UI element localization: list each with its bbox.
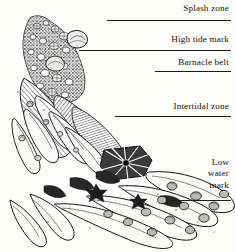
- label-intertidal-zone: Intertidal zone: [173, 101, 229, 112]
- rule-barnacle-belt: [155, 71, 231, 72]
- rule-low-water-mark: [171, 200, 231, 201]
- label-barnacle-belt: Barnacle belt: [178, 57, 229, 68]
- label-low-water-mark: Low water mark: [208, 157, 229, 191]
- rule-splash-zone: [107, 20, 231, 21]
- limpet-medium: [46, 56, 65, 71]
- limpet-large: [67, 30, 87, 48]
- rule-intertidal-zone: [115, 116, 231, 117]
- lower-kelp-bed: [10, 171, 234, 248]
- label-high-tide-mark: High tide mark: [171, 34, 229, 45]
- label-splash-zone: Splash zone: [183, 3, 229, 14]
- zonation-figure: Splash zone High tide mark Barnacle belt…: [0, 0, 235, 252]
- rule-high-tide-mark: [79, 50, 231, 51]
